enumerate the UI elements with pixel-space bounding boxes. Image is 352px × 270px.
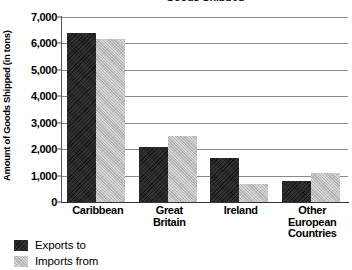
bar-ireland-imports-from [239,184,268,203]
bar-caribbean-exports-to [67,33,96,202]
y-tick-label-6000: 6,000 [14,38,57,49]
x-label-line: Countries [276,228,348,240]
chart-legend: Exports to Imports from [14,237,194,269]
bar-group-great-britain [134,17,206,202]
legend-label-imports: Imports from [35,255,98,267]
x-label-line: Other [276,205,348,217]
y-tick-label-3000: 3,000 [14,117,57,128]
x-label-line: Ireland [205,205,277,217]
bar-group-caribbean [62,17,134,202]
y-tick-label-4000: 4,000 [14,91,57,102]
x-label-ireland: Ireland [205,205,277,217]
y-tick-label-5000: 5,000 [14,64,57,75]
x-label-line: Caribbean [62,205,134,217]
bar-great-britain-imports-from [168,136,197,202]
bar-other-european-countries-imports-from [311,173,340,202]
legend-label-exports: Exports to [35,239,86,251]
y-axis-title: Amount of Goods Shipped (in tons) [0,8,14,204]
bar-group-ireland [205,17,277,202]
x-label-line: Great [133,205,205,217]
y-tick-label-1000: 1,000 [14,170,57,181]
x-axis-line [61,202,349,203]
bar-group-other-european-countries [277,17,349,202]
y-tick-label-7000: 7,000 [14,12,57,23]
bar-ireland-exports-to [210,158,239,202]
x-label-line: Britain [133,217,205,229]
legend-swatch-exports-icon [14,240,28,251]
chart-title: Goods Shipped [62,0,348,1]
legend-item-imports: Imports from [14,253,194,269]
bar-other-european-countries-exports-to [282,181,311,202]
bar-caribbean-imports-from [96,39,125,202]
bars-layer [62,17,348,202]
y-axis-tick-labels: 01,0002,0003,0004,0005,0006,0007,000 [14,0,60,270]
x-label-caribbean: Caribbean [62,205,134,217]
legend-item-exports: Exports to [14,237,194,253]
y-tick-label-2000: 2,000 [14,144,57,155]
legend-swatch-imports-icon [14,256,28,267]
y-tick-label-0: 0 [14,197,57,208]
bar-great-britain-exports-to [139,147,168,203]
x-label-great-britain: GreatBritain [133,205,205,228]
x-label-other-european-countries: OtherEuropeanCountries [276,205,348,240]
